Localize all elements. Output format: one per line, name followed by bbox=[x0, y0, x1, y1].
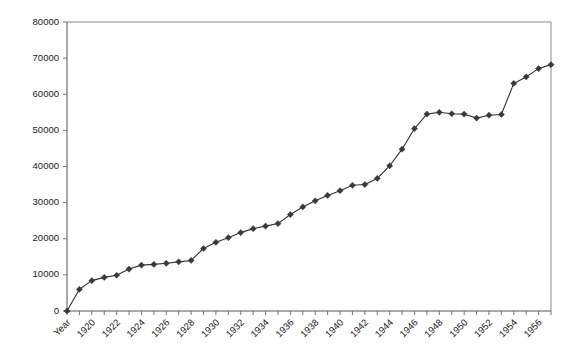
y-tick-label: 10000 bbox=[33, 268, 59, 279]
y-tick-label: 40000 bbox=[33, 160, 59, 171]
chart-container: 0100002000030000400005000060000700008000… bbox=[0, 0, 573, 364]
y-tick-label: 0 bbox=[54, 305, 59, 316]
line-chart: 0100002000030000400005000060000700008000… bbox=[0, 0, 573, 364]
y-tick-label: 50000 bbox=[33, 124, 59, 135]
y-tick-label: 70000 bbox=[33, 52, 59, 63]
y-tick-label: 80000 bbox=[33, 16, 59, 27]
y-tick-label: 30000 bbox=[33, 196, 59, 207]
y-tick-label: 60000 bbox=[33, 88, 59, 99]
chart-background bbox=[0, 0, 573, 364]
y-axis-tick-labels: 0100002000030000400005000060000700008000… bbox=[33, 16, 59, 316]
y-tick-label: 20000 bbox=[33, 232, 59, 243]
